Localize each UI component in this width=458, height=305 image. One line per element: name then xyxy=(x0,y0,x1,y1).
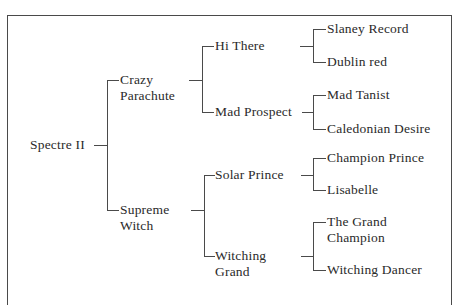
connector xyxy=(313,129,326,130)
node-label: Spectre II xyxy=(30,137,85,153)
connector-dam-sire xyxy=(204,175,215,176)
bracket xyxy=(313,29,314,63)
node-dam-dam: Witching Grand xyxy=(215,248,266,279)
node-ggp-6: Lisabelle xyxy=(327,182,378,198)
node-label: Mad Prospect xyxy=(215,104,292,120)
node-label: Champion Prince xyxy=(327,150,424,166)
node-label: Witching Dancer xyxy=(327,262,422,278)
node-label: Mad Tanist xyxy=(327,87,390,103)
node-ggp-1: Slaney Record xyxy=(327,21,409,37)
node-label: Hi There xyxy=(215,38,265,54)
node-sire-dam: Mad Prospect xyxy=(215,104,292,120)
node-ggp-7: The Grand Champion xyxy=(327,214,387,245)
node-sire: Crazy Parachute xyxy=(120,72,175,103)
connector xyxy=(313,270,326,271)
connector xyxy=(313,158,326,159)
node-ggp-3: Mad Tanist xyxy=(327,87,390,103)
node-label-line1: Crazy xyxy=(120,72,175,88)
connector xyxy=(313,29,326,30)
bracket-dam xyxy=(204,175,205,257)
connector-root xyxy=(94,145,107,146)
node-dam-sire: Solar Prince xyxy=(215,167,284,183)
node-label: Caledonian Desire xyxy=(327,121,431,137)
node-label-line1: Supreme xyxy=(120,202,169,218)
bracket xyxy=(313,222,314,271)
node-label: Solar Prince xyxy=(215,167,284,183)
node-label-line1: Witching xyxy=(215,248,266,264)
connector-sire-sire xyxy=(202,46,214,47)
node-root: Spectre II xyxy=(30,137,85,153)
connector-sire xyxy=(107,80,119,81)
node-label-line2: Witch xyxy=(120,218,169,234)
connector xyxy=(313,190,326,191)
node-label: Dublin red xyxy=(327,54,387,70)
connector xyxy=(313,95,326,96)
connector-out xyxy=(300,46,313,47)
connector-out xyxy=(302,112,313,113)
connector xyxy=(313,222,326,223)
connector-out xyxy=(301,175,313,176)
connector-out xyxy=(301,256,313,257)
node-sire-sire: Hi There xyxy=(215,38,265,54)
connector-dam xyxy=(107,210,119,211)
connector-dam-dam xyxy=(204,256,215,257)
node-label: Slaney Record xyxy=(327,21,409,37)
node-label-line2: Champion xyxy=(327,230,387,246)
bracket xyxy=(313,95,314,130)
connector xyxy=(313,62,326,63)
bracket-sire xyxy=(202,46,203,113)
bracket-root xyxy=(107,80,108,211)
node-label: Lisabelle xyxy=(327,182,378,198)
node-ggp-4: Caledonian Desire xyxy=(327,121,431,137)
node-label-line1: The Grand xyxy=(327,214,387,230)
node-label-line2: Grand xyxy=(215,264,266,280)
connector-sire-dam xyxy=(202,112,214,113)
node-ggp-8: Witching Dancer xyxy=(327,262,422,278)
connector-sire-out xyxy=(189,80,202,81)
node-dam: Supreme Witch xyxy=(120,202,169,233)
node-label-line2: Parachute xyxy=(120,88,175,104)
node-ggp-5: Champion Prince xyxy=(327,150,424,166)
bracket xyxy=(313,158,314,191)
connector-dam-out xyxy=(191,210,204,211)
node-ggp-2: Dublin red xyxy=(327,54,387,70)
